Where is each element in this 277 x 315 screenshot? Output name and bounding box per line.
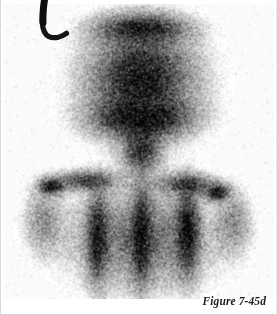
figure-caption: Figure 7-45d	[203, 295, 267, 307]
figure-container: Figure 7-45d	[0, 0, 277, 315]
scintigraphy-scan-image	[1, 0, 277, 315]
